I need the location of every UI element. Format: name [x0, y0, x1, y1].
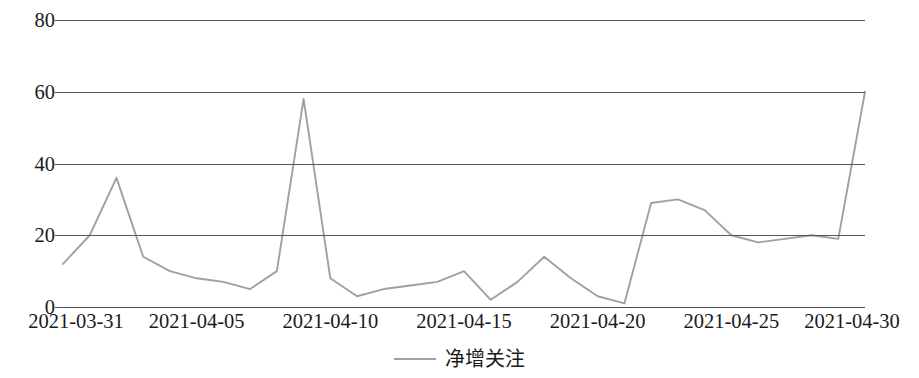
- x-axis-labels: 2021-03-312021-04-052021-04-102021-04-15…: [0, 311, 919, 345]
- line-chart: 020406080 2021-03-312021-04-052021-04-10…: [0, 0, 919, 378]
- y-tick-label: 60: [35, 82, 56, 103]
- series-polyline: [63, 92, 865, 304]
- x-tick-label: 2021-04-20: [550, 311, 646, 332]
- x-tick-label: 2021-04-15: [416, 311, 512, 332]
- y-tick-label: 20: [35, 225, 56, 246]
- y-tick-mark: [55, 92, 63, 93]
- gridline: [63, 164, 865, 165]
- y-tick-label: 80: [35, 10, 56, 31]
- x-tick-label: 2021-03-31: [28, 311, 124, 332]
- y-tick-label: 40: [35, 154, 56, 175]
- gridline: [63, 20, 865, 21]
- y-tick-mark: [55, 164, 63, 165]
- gridline: [63, 235, 865, 236]
- chart-legend: 净增关注: [0, 349, 919, 369]
- x-axis-line: [63, 307, 865, 308]
- x-tick-label: 2021-04-05: [149, 311, 245, 332]
- x-tick-label: 2021-04-25: [684, 311, 780, 332]
- y-tick-mark: [55, 20, 63, 21]
- y-tick-mark: [55, 235, 63, 236]
- x-tick-label: 2021-04-30: [804, 311, 900, 332]
- plot-area: [63, 20, 865, 307]
- y-tick-mark: [55, 307, 63, 308]
- x-tick-label: 2021-04-10: [283, 311, 379, 332]
- gridline: [63, 92, 865, 93]
- legend-label: 净增关注: [445, 349, 525, 369]
- legend-line-swatch-icon: [394, 358, 436, 360]
